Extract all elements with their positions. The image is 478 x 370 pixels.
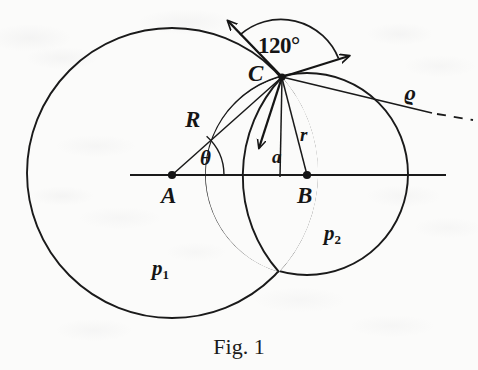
- radius-small-label: r: [300, 125, 307, 144]
- point-c-label: C: [248, 62, 263, 85]
- region-p1-base: p: [152, 256, 163, 280]
- region-p2-subscript: 2: [335, 232, 342, 247]
- rho-line-dashed: [437, 114, 473, 120]
- region-p1-subscript: 1: [163, 267, 170, 282]
- figure-caption: Fig. 1: [0, 334, 478, 360]
- theta-label: θ: [200, 148, 211, 169]
- point-a-label: A: [161, 184, 176, 207]
- angle-120-label: 120°: [258, 34, 300, 57]
- offset-a-label: a: [272, 147, 282, 166]
- geometry-figure-canvas: [0, 0, 478, 370]
- region-p1-label: p1: [152, 258, 169, 281]
- point-marker-b: [303, 171, 311, 179]
- rho-label: ϱ: [404, 82, 416, 104]
- point-marker-a: [168, 171, 176, 179]
- figure-page: 120° C ϱ R r θ a A B p2 p1 Fig. 1: [0, 0, 478, 370]
- region-p2-base: p: [324, 221, 335, 245]
- point-b-label: B: [297, 184, 312, 207]
- point-marker-c: [278, 73, 285, 80]
- region-p2-label: p2: [324, 223, 341, 246]
- radius-big-label: R: [185, 108, 200, 131]
